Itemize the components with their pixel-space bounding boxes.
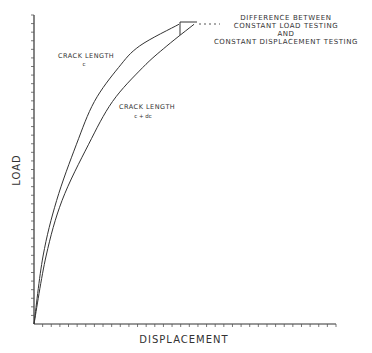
curves <box>34 24 194 324</box>
annotation-line-4: CONSTANT DISPLACEMENT TESTING <box>214 38 358 46</box>
series-2-label: CRACK LENGTH <box>119 103 175 111</box>
series-1-label: CRACK LENGTH <box>58 52 114 60</box>
axes <box>31 15 336 327</box>
series-1-sublabel: c <box>82 61 85 67</box>
annotation-line-1: DIFFERENCE BETWEEN <box>240 14 331 22</box>
curve-crack-length-c <box>34 24 179 324</box>
annotation-line-2: CONSTANT LOAD TESTING <box>234 22 339 30</box>
x-axis-label: DISPLACEMENT <box>139 334 228 345</box>
y-axis-label: LOAD <box>11 154 22 185</box>
curve-crack-length-c-plus-dc <box>34 24 194 324</box>
difference-marker <box>180 22 220 35</box>
load-displacement-diagram: DIFFERENCE BETWEEN CONSTANT LOAD TESTING… <box>0 0 372 353</box>
series-2-sublabel: c + dc <box>134 113 152 119</box>
annotation-line-3: AND <box>277 30 294 38</box>
